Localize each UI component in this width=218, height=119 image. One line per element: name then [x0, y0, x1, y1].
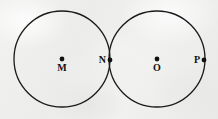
point-p-dot — [202, 58, 207, 63]
point-label-o: O — [153, 63, 161, 73]
point-m-dot — [60, 57, 65, 62]
point-o-dot — [155, 57, 160, 62]
point-n-dot — [108, 58, 113, 63]
figure-canvas — [0, 0, 218, 119]
geometry-figure: M N O P — [0, 0, 218, 119]
point-label-p: P — [194, 55, 200, 65]
point-label-n: N — [99, 55, 106, 65]
point-label-m: M — [57, 63, 66, 73]
